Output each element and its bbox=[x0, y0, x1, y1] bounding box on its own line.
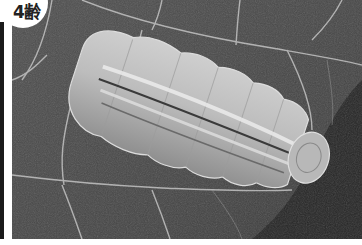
photo-illustration bbox=[12, 0, 362, 239]
instar-label: 4齢 bbox=[13, 2, 40, 22]
caterpillar-photo: 4齢 bbox=[12, 0, 362, 239]
left-border-bar bbox=[0, 22, 4, 239]
